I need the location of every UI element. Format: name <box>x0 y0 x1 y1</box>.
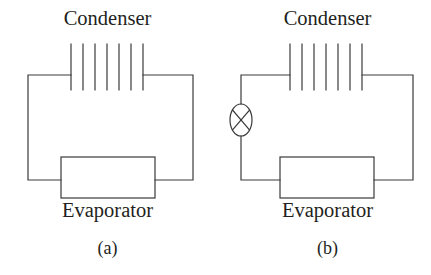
evaporator-label-a: Evaporator <box>0 200 215 221</box>
evaporator-label-b: Evaporator <box>220 200 431 221</box>
condenser-fins-icon <box>71 44 143 90</box>
sub-label-a: (a) <box>0 239 215 257</box>
sub-label-b: (b) <box>220 239 431 257</box>
evaporator-box-icon <box>280 157 374 198</box>
diagram-panel-a: Condenser <box>0 0 215 275</box>
figure-root: Condenser <box>0 0 431 275</box>
piping-loop-icon-right <box>362 75 413 180</box>
circuit-diagram-a <box>0 0 215 275</box>
diagram-panel-b: Condenser <box>216 0 431 275</box>
circuit-diagram-b <box>216 0 431 275</box>
piping-loop-icon-right <box>143 75 193 180</box>
piping-loop-icon-left <box>28 75 71 180</box>
evaporator-box-icon <box>61 157 155 198</box>
valve-crossed-circle-icon <box>230 104 252 136</box>
condenser-fins-icon <box>290 44 362 90</box>
piping-loop-icon-left-lower <box>241 136 280 180</box>
piping-loop-icon-left-upper <box>241 75 290 104</box>
